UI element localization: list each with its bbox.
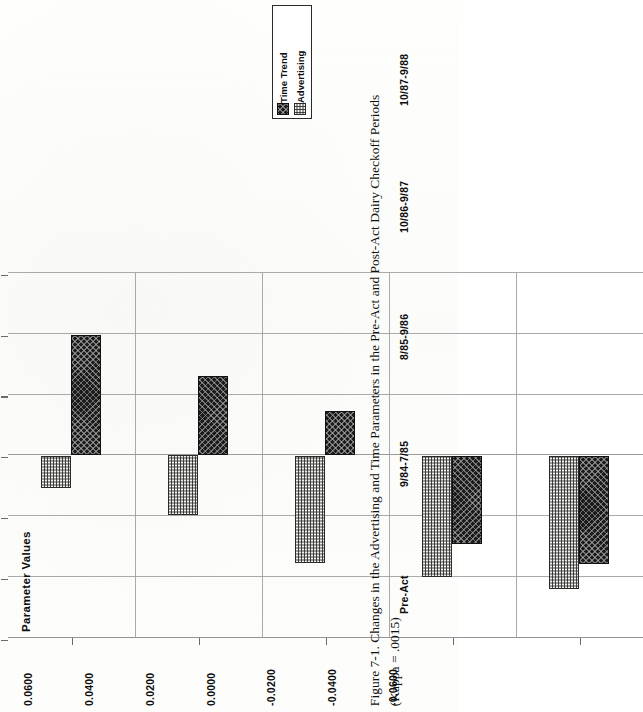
bar (198, 376, 228, 456)
bar (295, 456, 325, 563)
legend-entry[interactable]: Advertising (293, 7, 310, 117)
legend-label: Time Trend (278, 52, 289, 103)
category-tick (580, 638, 581, 645)
bar (71, 335, 101, 455)
value-tick-label: -0.0400 (326, 669, 338, 706)
value-tick-label: 0.0400 (83, 673, 95, 706)
value-tick-label: 0.0000 (205, 673, 217, 706)
bar (452, 456, 482, 545)
category-separator (135, 273, 136, 638)
category-separator (262, 273, 263, 638)
category-separator (516, 273, 517, 638)
plot-area (8, 3, 373, 638)
value-tick (1, 579, 8, 580)
bar (549, 456, 579, 590)
bar (41, 456, 71, 489)
legend-label: Advertising (295, 51, 306, 103)
legend-entry[interactable]: Time Trend (276, 7, 293, 117)
caption-line-2: (Kappa = .0015) (384, 6, 404, 706)
chart-canvas (0, 0, 400, 660)
value-tick-label: -0.0200 (265, 669, 277, 706)
caption-line-1: Figure 7-1. Changes in the Advertising a… (367, 95, 382, 706)
value-tick (1, 336, 8, 337)
gridline (8, 333, 643, 334)
value-tick (1, 396, 8, 397)
value-tick (1, 518, 8, 519)
chart-legend[interactable]: Time TrendAdvertising (272, 5, 312, 119)
value-tick-label: 0.0200 (144, 673, 156, 706)
light-stipple-swatch (294, 103, 306, 115)
value-tick-label: 0.0600 (22, 673, 34, 706)
bar (168, 456, 198, 515)
bar (422, 456, 452, 578)
value-axis-title: Parameter Values (20, 531, 32, 632)
category-tick (326, 638, 327, 645)
bar (579, 456, 609, 565)
category-tick (72, 638, 73, 645)
dark-crosshatch-swatch (277, 103, 289, 115)
category-tick (453, 638, 454, 645)
category-tick (199, 638, 200, 645)
gridline (8, 272, 643, 273)
value-tick (1, 275, 8, 276)
value-tick (1, 457, 8, 458)
value-tick (1, 640, 8, 641)
bar (325, 411, 355, 455)
figure-caption: Figure 7-1. Changes in the Advertising a… (365, 6, 404, 706)
gridline (8, 394, 643, 395)
